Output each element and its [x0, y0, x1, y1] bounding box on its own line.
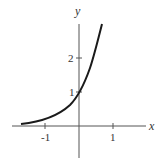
y-tick-label-2: 2 [68, 52, 74, 64]
x-tick-label-1: 1 [110, 131, 116, 143]
y-tick-label-1: 1 [69, 86, 75, 98]
x-axis-label: x [148, 119, 155, 133]
chart: -1 1 1 2 x y [0, 0, 162, 160]
exponential-curve [21, 24, 102, 124]
y-axis-label: y [74, 4, 81, 18]
x-tick-label-neg1: -1 [41, 131, 50, 143]
